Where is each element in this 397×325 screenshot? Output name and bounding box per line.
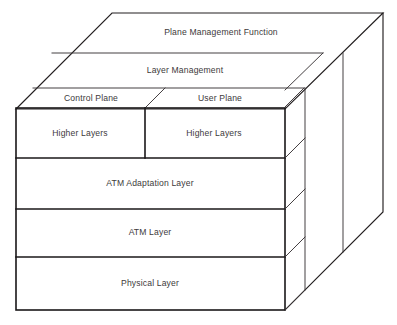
atm-reference-model-diagram: Plane Management Function Layer Manageme… — [0, 0, 397, 325]
label-user-plane: User Plane — [198, 93, 242, 103]
label-control-plane: Control Plane — [64, 93, 118, 103]
face-fills — [16, 13, 383, 310]
label-atm-adaptation-layer: ATM Adaptation Layer — [106, 178, 193, 188]
atm-cube-svg: Plane Management Function Layer Manageme… — [0, 0, 397, 325]
label-higher-layers-user: Higher Layers — [186, 128, 241, 138]
label-layer-management: Layer Management — [147, 65, 224, 75]
label-higher-layers-control: Higher Layers — [52, 128, 107, 138]
label-atm-layer: ATM Layer — [129, 227, 172, 237]
label-physical-layer: Physical Layer — [121, 278, 179, 288]
label-plane-management-function: Plane Management Function — [164, 27, 278, 37]
